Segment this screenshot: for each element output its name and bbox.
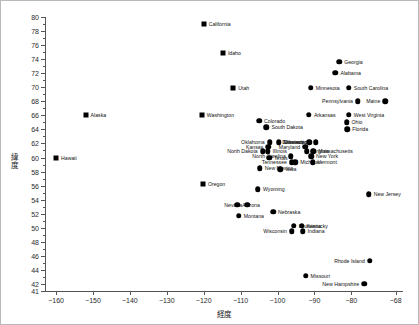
y-tick-mark-minor	[43, 136, 45, 137]
x-tick-mark	[130, 291, 131, 295]
y-tick-label: 50	[31, 224, 39, 231]
y-tick-mark-minor	[43, 221, 45, 222]
x-tick-label: −100	[270, 297, 286, 304]
data-point-marker	[344, 120, 350, 126]
data-point-marker	[278, 167, 284, 173]
data-point-label: Wyoming	[263, 186, 285, 192]
data-point-marker	[366, 191, 372, 197]
data-point-label: Ohio	[352, 119, 363, 125]
y-tick-label: 54	[31, 196, 39, 203]
data-point-label: Montana	[244, 213, 264, 219]
chart-frame: −160−150−140−130−120−110−100−90−80−68 41…	[0, 0, 419, 325]
data-point-marker	[201, 22, 206, 27]
data-point-marker	[288, 153, 294, 159]
data-point-marker	[231, 85, 236, 90]
x-tick-label: −150	[85, 297, 101, 304]
y-tick-mark	[41, 45, 45, 46]
x-tick-label: −90	[308, 297, 320, 304]
y-tick-mark-minor	[43, 122, 45, 123]
y-tick-label: 60	[31, 154, 39, 161]
y-tick-mark-minor	[43, 263, 45, 264]
y-tick-mark	[41, 242, 45, 243]
data-point-label: Arkansas	[314, 112, 336, 118]
y-tick-mark-minor	[43, 179, 45, 180]
data-point-label: New Jersey	[374, 191, 401, 197]
data-point-label: Colorado	[264, 118, 285, 124]
data-point-label: Wisconsin	[263, 228, 287, 234]
y-tick-mark-minor	[43, 249, 45, 250]
data-point-label: Florida	[352, 126, 368, 132]
data-point-label: Georgia	[344, 59, 362, 65]
x-tick-mark	[204, 291, 205, 295]
y-tick-mark-minor	[43, 207, 45, 208]
x-tick-mark	[396, 291, 397, 295]
data-point-label: Vermont	[318, 159, 337, 165]
y-tick-label: 76	[31, 42, 39, 49]
data-point-label: Iowa	[285, 166, 296, 172]
y-tick-label: 44	[31, 266, 39, 273]
data-point-label: Washington	[207, 112, 234, 118]
x-tick-mark	[241, 291, 242, 295]
data-point-label: Arizona	[242, 202, 260, 208]
y-tick-mark	[41, 31, 45, 32]
y-tick-label: 66	[31, 112, 39, 119]
y-tick-label: 41	[31, 288, 39, 295]
scatter-plot-area: −160−150−140−130−120−110−100−90−80−68 41…	[1, 1, 419, 325]
data-point-marker	[361, 281, 367, 287]
data-point-marker	[54, 155, 59, 160]
x-axis-line	[45, 291, 403, 292]
data-point-marker	[355, 99, 361, 105]
y-tick-label: 80	[31, 14, 39, 21]
data-point-marker	[289, 229, 295, 235]
data-point-marker	[236, 213, 242, 219]
x-tick-label: −140	[122, 297, 138, 304]
y-tick-mark	[41, 17, 45, 18]
y-tick-label: 62	[31, 140, 39, 147]
y-axis-title: 緯度	[10, 154, 18, 170]
data-point-marker	[264, 125, 270, 131]
data-point-label: Alaska	[91, 112, 107, 118]
data-point-marker	[235, 202, 241, 208]
y-tick-mark	[41, 115, 45, 116]
y-tick-mark-minor	[43, 108, 45, 109]
data-point-marker	[336, 59, 342, 65]
y-tick-mark-minor	[43, 66, 45, 67]
y-tick-mark	[41, 214, 45, 215]
data-point-marker	[346, 112, 352, 118]
data-point-marker	[308, 85, 314, 91]
x-tick-mark	[167, 291, 168, 295]
data-point-label: Hawaii	[61, 155, 77, 161]
y-tick-label: 64	[31, 126, 39, 133]
data-point-marker	[313, 139, 319, 145]
data-point-marker	[333, 70, 339, 76]
y-tick-mark	[41, 270, 45, 271]
y-tick-mark	[41, 143, 45, 144]
y-tick-label: 42	[31, 280, 39, 287]
y-tick-label: 48	[31, 238, 39, 245]
data-point-label: Alabama	[340, 70, 360, 76]
y-tick-mark	[41, 101, 45, 102]
data-point-label: Rhode Island	[334, 258, 365, 264]
y-tick-label: 58	[31, 168, 39, 175]
y-tick-label: 78	[31, 28, 39, 35]
y-tick-mark-minor	[43, 38, 45, 39]
y-tick-mark	[41, 284, 45, 285]
data-point-marker	[220, 50, 225, 55]
y-tick-label: 52	[31, 210, 39, 217]
y-tick-mark-minor	[43, 52, 45, 53]
y-tick-mark-minor	[43, 235, 45, 236]
data-point-label: Minnesota	[316, 85, 340, 91]
data-point-marker	[346, 85, 352, 91]
x-tick-mark	[351, 291, 352, 295]
y-tick-label: 68	[31, 98, 39, 105]
y-tick-label: 56	[31, 182, 39, 189]
y-tick-mark-minor	[43, 150, 45, 151]
data-point-marker	[83, 113, 88, 118]
data-point-label: Nebraska	[278, 209, 300, 215]
x-tick-label: −80	[345, 297, 357, 304]
y-tick-mark	[41, 186, 45, 187]
x-tick-mark	[93, 291, 94, 295]
data-point-marker	[300, 229, 306, 235]
y-tick-mark	[41, 228, 45, 229]
y-tick-mark-minor	[43, 94, 45, 95]
